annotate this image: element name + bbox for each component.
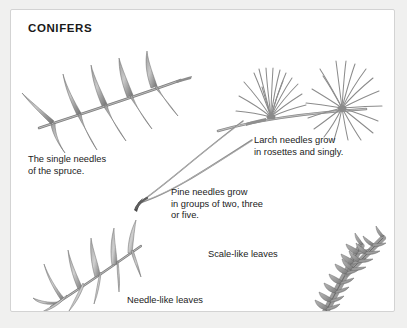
caption-larch: Larch needles grow in rosettes and singl…	[254, 135, 343, 158]
scale-leaves-main	[315, 233, 370, 310]
larch-rosette-right-base	[338, 105, 347, 110]
caption-pine: Pine needles grow in groups of two, thre…	[171, 187, 263, 222]
spruce-upper-needles	[22, 51, 157, 124]
larch-rosette-right	[306, 61, 382, 140]
scale-like-spray-illustration	[309, 218, 395, 312]
caption-scale-like-leaves: Scale-like leaves	[208, 249, 278, 261]
illustration-card: CONIFERS	[10, 9, 395, 312]
page-title: CONIFERS	[28, 22, 92, 34]
caption-spruce: The single needles of the spruce.	[28, 154, 106, 177]
frond-lower-leaflets	[33, 250, 141, 312]
caption-needle-like-leaves: Needle-like leaves	[127, 295, 203, 307]
larch-rosette-left	[236, 68, 306, 117]
conifers-diagram-page: CONIFERS	[0, 0, 407, 328]
